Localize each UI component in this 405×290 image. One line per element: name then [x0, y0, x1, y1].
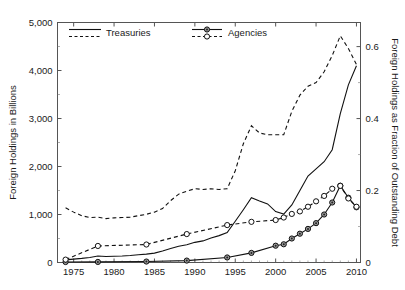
- chart-svg: 1975198019851990199520002005201001,0002,…: [0, 0, 405, 290]
- x-tick-label: 1995: [225, 266, 246, 277]
- legend-agencies-open-marker: [204, 34, 209, 39]
- series-marker-3: [338, 183, 343, 188]
- series-marker-3: [305, 204, 310, 209]
- y-tick-label: 3,000: [29, 113, 53, 124]
- series-marker-3: [273, 217, 278, 222]
- y2-tick-label: 0: [366, 257, 371, 268]
- series-marker-dot-2: [145, 261, 147, 263]
- y2-tick-label: 0.4: [366, 113, 379, 124]
- series-marker-dot-2: [315, 222, 317, 224]
- series-marker-dot-2: [299, 233, 301, 235]
- series-marker-3: [330, 186, 335, 191]
- y2-tick-label: 0.6: [366, 41, 379, 52]
- x-tick-label: 1990: [184, 266, 205, 277]
- series-marker-3: [289, 211, 294, 216]
- x-tick-label: 2010: [346, 266, 367, 277]
- x-tick-label: 1980: [103, 266, 124, 277]
- legend-treasuries-label: Treasuries: [106, 27, 151, 38]
- right-axis-title: Foreign Holdings as Fraction of Outstand…: [390, 38, 401, 247]
- y-tick-label: 1,000: [29, 209, 53, 220]
- series-marker-dot-2: [291, 238, 293, 240]
- series-marker-dot-2: [307, 228, 309, 230]
- series-marker-dot-2: [250, 252, 252, 254]
- series-marker-3: [63, 257, 68, 262]
- series-marker-dot-2: [97, 261, 99, 263]
- series-marker-3: [184, 231, 189, 236]
- series-marker-3: [313, 199, 318, 204]
- series-marker-dot-2: [331, 202, 333, 204]
- left-axis-title: Foreign Holdings in Billions: [7, 85, 18, 200]
- series-line-3: [66, 186, 357, 260]
- series-marker-dot-2: [283, 243, 285, 245]
- series-marker-3: [297, 209, 302, 214]
- y-tick-label: 0: [47, 257, 52, 268]
- series-marker-3: [225, 222, 230, 227]
- x-tick-label: 2005: [305, 266, 326, 277]
- series-line-2: [66, 186, 357, 262]
- plot-frame: [58, 23, 361, 263]
- series-marker-3: [354, 204, 359, 209]
- y-tick-label: 2,000: [29, 161, 53, 172]
- y2-tick-label: 0.2: [366, 185, 379, 196]
- y-tick-label: 4,000: [29, 65, 53, 76]
- series-marker-3: [144, 242, 149, 247]
- series-marker-3: [95, 243, 100, 248]
- series-marker-dot-2: [226, 256, 228, 258]
- chart-legend: TreasuriesAgencies: [69, 27, 267, 39]
- chart-figure: 1975198019851990199520002005201001,0002,…: [0, 0, 405, 290]
- series-marker-dot-2: [186, 260, 188, 262]
- x-tick-label: 1985: [144, 266, 165, 277]
- series-marker-3: [346, 196, 351, 201]
- series-marker-3: [249, 219, 254, 224]
- series-line-1: [66, 36, 357, 219]
- legend-agencies-label: Agencies: [228, 27, 267, 38]
- series-marker-3: [281, 215, 286, 220]
- series-marker-dot-2: [323, 214, 325, 216]
- x-tick-label: 2000: [265, 266, 286, 277]
- legend-agencies-filled-marker-dot: [206, 29, 208, 31]
- series-marker-dot-2: [275, 245, 277, 247]
- series-marker-3: [322, 193, 327, 198]
- x-tick-label: 1975: [63, 266, 84, 277]
- series-line-0: [66, 66, 357, 260]
- y-tick-label: 5,000: [29, 17, 53, 28]
